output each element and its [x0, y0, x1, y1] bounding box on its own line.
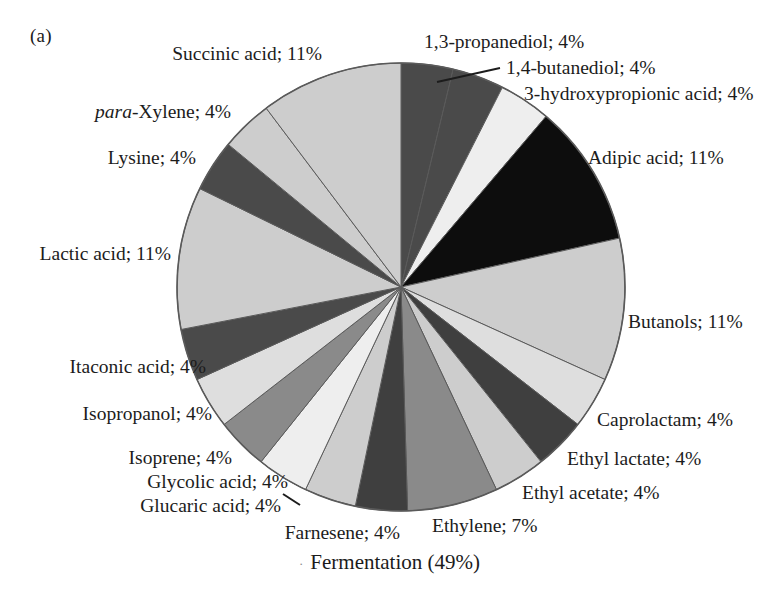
caption-bullet: ·: [299, 556, 303, 571]
label-para-xylene-italic: para: [95, 101, 132, 122]
label-glycolic-acid: Glycolic acid; 4%: [147, 470, 288, 493]
leader-line-glucaric: [283, 494, 300, 505]
label-lactic-acid: Lactic acid; 11%: [40, 242, 171, 265]
label-3-hydroxypropionic-acid: 3-hydroxypropionic acid; 4%: [524, 82, 754, 105]
label-itaconic-acid: Itaconic acid; 4%: [70, 355, 206, 378]
label-butanols: Butanols; 11%: [628, 310, 743, 333]
label-para-xylene-rest: -Xylene; 4%: [132, 101, 231, 122]
label-farnesene: Farnesene; 4%: [285, 521, 400, 544]
label-succinic-acid: Succinic acid; 11%: [172, 42, 322, 65]
label-adipic-acid: Adipic acid; 11%: [588, 146, 724, 169]
label-isopropanol: Isopropanol; 4%: [83, 402, 212, 425]
label-glucaric-acid: Glucaric acid; 4%: [140, 494, 281, 517]
label-ethyl-acetate: Ethyl acetate; 4%: [522, 481, 660, 504]
label-ethyl-lactate: Ethyl lactate; 4%: [567, 447, 701, 470]
chart-caption: ·Fermentation (49%): [0, 550, 779, 575]
label-ethylene: Ethylene; 7%: [432, 514, 538, 537]
label-1-4-butanediol: 1,4-butanediol; 4%: [506, 56, 655, 79]
label-para-xylene: para-Xylene; 4%: [95, 100, 231, 123]
label-lysine: Lysine; 4%: [108, 146, 196, 169]
label-1-3-propanediol: 1,3-propanediol; 4%: [424, 30, 584, 53]
figure-panel: (a) 1,3-propanediol; 4%1,4-butanediol; 4…: [0, 0, 779, 604]
pie-slice-group: 1,3-propanediol; 4%1,4-butanediol; 4%3-h…: [177, 63, 625, 511]
caption-text: Fermentation (49%): [310, 550, 480, 574]
label-isoprene: Isoprene; 4%: [129, 446, 232, 469]
label-caprolactam: Caprolactam; 4%: [597, 408, 733, 431]
